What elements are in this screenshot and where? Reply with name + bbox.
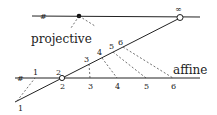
slanted-point-2: 2: [56, 68, 61, 77]
parallel-mark-top: #: [40, 12, 47, 21]
slanted-point-1: 1: [18, 104, 23, 113]
slanted-point-5: 5: [109, 42, 114, 51]
affine-point-5: 5: [144, 82, 149, 91]
projective-line: [32, 16, 200, 17]
affine-point-4: 4: [115, 82, 120, 91]
projection-4: [102, 58, 117, 78]
projection-6: [123, 47, 173, 78]
affine-point-2: 2: [60, 82, 65, 91]
projection-3: [89, 64, 90, 78]
affine-point-3: 3: [88, 82, 93, 91]
slanted-point-4: 4: [97, 48, 102, 57]
infinity-label: ∞: [175, 5, 182, 14]
slanted-point-3: 3: [84, 55, 89, 64]
dashed-ray-right: [79, 16, 95, 26]
slanted-point-6: 6: [118, 38, 123, 47]
projective-affine-diagram: # projective ∞ # affine 1 2 3 4 5 6 1 2 …: [0, 0, 217, 115]
projection-5: [113, 52, 146, 78]
affine-point-6: 6: [171, 82, 176, 91]
parallel-mark-affine: #: [17, 74, 24, 83]
projective-label: projective: [31, 32, 92, 46]
affine-label: affine: [173, 63, 207, 77]
affine-point-1: 1: [33, 68, 38, 77]
